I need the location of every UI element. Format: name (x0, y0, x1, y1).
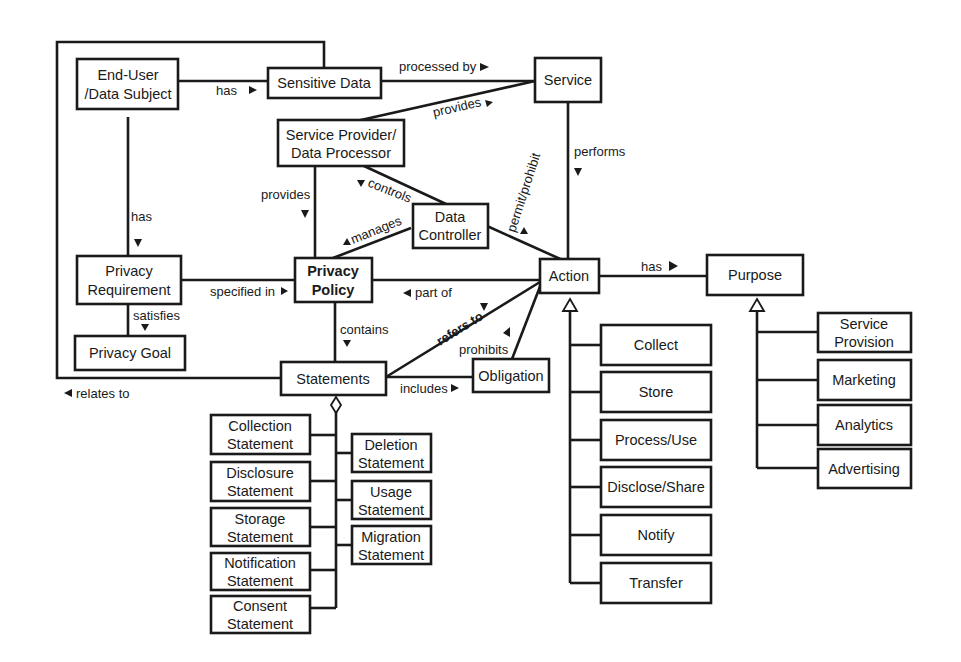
edge-label-contains: contains (340, 322, 389, 337)
edge-label-includes: includes (400, 381, 448, 396)
node-label: Purpose (728, 267, 782, 283)
aggregation-diamond-icon (331, 397, 341, 413)
node-label: Statement (358, 502, 424, 518)
node-label: Usage (370, 484, 412, 500)
node-collect[interactable]: Collect (601, 325, 711, 365)
node-purpose[interactable]: Purpose (707, 255, 803, 295)
direction-arrow-icon (503, 327, 510, 337)
node-label: Obligation (478, 368, 543, 384)
node-action[interactable]: Action (540, 259, 599, 293)
node-label: Privacy Goal (89, 345, 171, 361)
edge-label-has-purpose: has (641, 259, 662, 274)
permit-prohibit-line (487, 226, 567, 262)
node-label: Storage (235, 511, 286, 527)
node-label: Statement (227, 529, 293, 545)
node-storage-statement[interactable]: Storage Statement (211, 508, 310, 546)
node-label: Statement (227, 436, 293, 452)
edge-label-relates-to: relates to (76, 386, 129, 401)
node-disclose-share[interactable]: Disclose/Share (601, 467, 711, 507)
direction-arrow-icon (357, 180, 365, 187)
node-collection-statement[interactable]: Collection Statement (211, 415, 310, 454)
node-label: Migration (361, 529, 421, 545)
node-label: Provision (834, 334, 894, 350)
node-label: Marketing (832, 372, 896, 388)
node-label: Policy (312, 282, 355, 298)
node-label: End-User (97, 67, 158, 83)
node-label: Controller (419, 227, 482, 243)
node-privacy-policy[interactable]: Privacy Policy (295, 258, 372, 302)
edge-label-processed-by: processed by (399, 59, 477, 74)
direction-arrow-icon (281, 287, 288, 295)
node-notify[interactable]: Notify (601, 515, 711, 555)
node-label: Statement (358, 455, 424, 471)
node-label: Sensitive Data (277, 75, 371, 91)
node-label: Privacy (307, 263, 359, 279)
node-end-user[interactable]: End-User /Data Subject (77, 59, 178, 109)
node-statements[interactable]: Statements (281, 362, 386, 395)
node-data-controller[interactable]: Data Controller (413, 204, 488, 248)
edge-label-performs: performs (574, 144, 626, 159)
direction-arrow-icon (134, 239, 142, 247)
node-label: Privacy (105, 263, 153, 279)
node-usage-statement[interactable]: Usage Statement (352, 481, 431, 519)
node-label: Advertising (828, 461, 900, 477)
node-process-use[interactable]: Process/Use (601, 420, 711, 460)
direction-arrow-icon (249, 86, 257, 94)
direction-arrow-icon (480, 63, 489, 71)
direction-arrow-icon (485, 100, 493, 107)
node-label: Action (549, 268, 589, 284)
node-label: /Data Subject (84, 86, 171, 102)
node-label: Store (639, 384, 674, 400)
node-transfer[interactable]: Transfer (601, 563, 711, 603)
node-migration-statement[interactable]: Migration Statement (352, 526, 431, 564)
node-label: Statement (227, 616, 293, 632)
node-consent-statement[interactable]: Consent Statement (211, 596, 310, 633)
node-label: Process/Use (615, 432, 697, 448)
node-label: Service (840, 316, 888, 332)
direction-arrow-icon (64, 389, 72, 397)
edge-label-controls: controls (366, 175, 414, 206)
direction-arrow-icon (451, 384, 459, 392)
node-label: Statements (296, 371, 369, 387)
direction-arrow-icon (301, 210, 309, 218)
node-analytics[interactable]: Analytics (818, 405, 911, 445)
node-service-provider[interactable]: Service Provider/ Data Processor (278, 120, 404, 166)
node-advertising[interactable]: Advertising (818, 449, 911, 488)
node-label: Disclose/Share (607, 479, 705, 495)
direction-arrow-icon (141, 324, 149, 331)
node-sensitive-data[interactable]: Sensitive Data (268, 68, 381, 98)
node-store[interactable]: Store (601, 372, 711, 412)
edge-label-satisfies: satisfies (133, 308, 180, 323)
node-label: Disclosure (226, 465, 294, 481)
edge-label-permit-prohibit: permit/prohibit (504, 151, 544, 234)
node-service[interactable]: Service (535, 58, 601, 102)
node-label: Notification (224, 555, 296, 571)
direction-arrow-icon (480, 303, 488, 311)
direction-arrow-icon (343, 340, 351, 347)
node-obligation[interactable]: Obligation (473, 359, 549, 392)
edge-label-specified-in: specified in (210, 284, 275, 299)
node-label: Notify (637, 527, 675, 543)
node-label: Collection (228, 418, 292, 434)
node-label: Statement (358, 547, 424, 563)
edge-label-has: has (216, 83, 237, 98)
node-label: Data (435, 209, 467, 225)
direction-arrow-icon (574, 168, 582, 176)
node-label: Service (544, 72, 592, 88)
direction-arrow-icon (520, 227, 528, 234)
direction-arrow-icon (403, 289, 411, 297)
edge-label-has-requirement: has (131, 209, 152, 224)
direction-arrow-icon (343, 238, 351, 245)
node-marketing[interactable]: Marketing (818, 360, 911, 400)
node-privacy-goal[interactable]: Privacy Goal (75, 336, 185, 370)
node-label: Collect (634, 337, 678, 353)
node-notification-statement[interactable]: Notification Statement (211, 553, 310, 590)
edge-label-provides-policy: provides (261, 187, 311, 202)
privacy-policy-uml-diagram: has processed by provides performs provi… (0, 0, 961, 662)
node-disclosure-statement[interactable]: Disclosure Statement (211, 462, 310, 501)
edge-label-prohibits: prohibits (459, 342, 509, 357)
node-privacy-requirement[interactable]: Privacy Requirement (77, 256, 181, 304)
node-label: Deletion (364, 437, 417, 453)
node-deletion-statement[interactable]: Deletion Statement (352, 434, 431, 472)
node-service-provision[interactable]: Service Provision (818, 313, 911, 352)
